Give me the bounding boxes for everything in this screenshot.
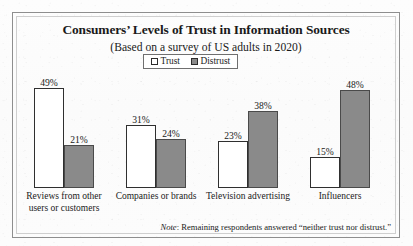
bar-value-label: 49% <box>40 78 58 88</box>
category-label: Companies or brands <box>116 191 197 203</box>
category-label: Influencers <box>319 191 362 203</box>
bar-group: 23%38%Television advertising <box>218 76 278 188</box>
bar-value-label: 23% <box>224 131 242 141</box>
category-label-line: Companies or brands <box>116 191 197 203</box>
chart-footnote: Note: Remaining respondents answered “ne… <box>160 223 391 232</box>
bar-value-label: 21% <box>70 135 88 145</box>
category-label-line: Television advertising <box>206 191 290 203</box>
bar-trust: 31% <box>126 125 156 188</box>
category-label: Television advertising <box>206 191 290 203</box>
bar-distrust: 48% <box>340 90 370 188</box>
bar-pair: 49%21% <box>34 76 94 188</box>
bar-distrust: 21% <box>64 145 94 188</box>
bar-trust: 49% <box>34 88 64 188</box>
category-label-line: Influencers <box>319 191 362 203</box>
bar-trust: 23% <box>218 141 248 188</box>
bar-pair: 15%48% <box>310 76 370 188</box>
bar-pair: 31%24% <box>126 76 186 188</box>
bar-value-label: 38% <box>254 101 272 111</box>
bar-group: 15%48%Influencers <box>310 76 370 188</box>
bar-pair: 23%38% <box>218 76 278 188</box>
footnote-text: : Remaining respondents answered “neithe… <box>177 222 391 232</box>
category-label: Reviews from otherusers or customers <box>26 191 101 214</box>
bar-value-label: 31% <box>132 115 150 125</box>
bar-value-label: 24% <box>162 129 180 139</box>
bar-value-label: 15% <box>316 147 334 157</box>
bar-trust: 15% <box>310 157 340 188</box>
bar-group: 31%24%Companies or brands <box>126 76 186 188</box>
bar-chart-plot-area: 49%21%Reviews from otherusers or custome… <box>0 0 413 246</box>
bar-distrust: 38% <box>248 111 278 188</box>
bar-value-label: 48% <box>346 80 364 90</box>
bar-group: 49%21%Reviews from otherusers or custome… <box>34 76 94 188</box>
footnote-lead: Note <box>160 222 176 232</box>
category-label-line: Reviews from other <box>26 191 101 203</box>
category-label-line: users or customers <box>26 203 101 215</box>
bar-distrust: 24% <box>156 139 186 188</box>
